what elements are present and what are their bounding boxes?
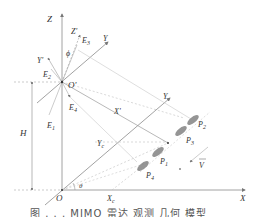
label-p3: P3 [185,136,194,146]
figure-caption: 图 . . . MIMO 雷达 观测 几何 模型 [30,205,240,217]
label-radar-y: Y [103,34,109,43]
label-p4: P4 [145,171,154,181]
label-xc: Xc [106,194,115,204]
label-e1: E1 [46,121,55,131]
label-theta: θ [79,182,83,190]
y-axis [45,98,170,205]
label-p1: P1 [159,157,168,167]
label-yc: Yc [97,139,104,149]
label-phi: ϕ [66,49,70,58]
label-x: X [239,193,246,203]
label-o: O [56,193,63,203]
label-z-prime: Z' [71,27,77,36]
label-v: V [199,161,205,170]
label-e4: E4 [68,103,77,113]
label-e2: E2 [42,70,51,80]
label-e3: E3 [81,36,90,46]
label-p2: P2 [197,120,206,130]
label-x-prime: X' [113,107,121,116]
label-h: H [19,128,27,138]
label-z: Z [47,14,53,24]
radar-geometry-diagram: Z Z' E3 Y ϕ Y' E2 O' E4 E1 X' Y H Yc P2 … [0,0,260,217]
velocity-arrow [190,147,208,162]
label-o-prime: O' [68,80,77,90]
label-y-prime: Y' [37,56,43,65]
